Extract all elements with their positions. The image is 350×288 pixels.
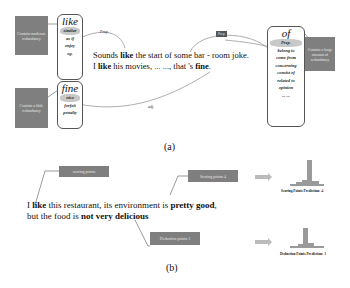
text: this restaurant, its environment is <box>46 200 170 210</box>
card-item: nice <box>60 94 80 102</box>
sentence-a-line2: I like his movies, ... ..., that 's fine… <box>93 61 211 72</box>
deduction-prediction: Deduction Points Prediction: 1 <box>280 251 326 256</box>
scoring-histogram <box>290 160 324 186</box>
card-item: opinion <box>268 84 304 92</box>
card-head: like <box>58 15 82 27</box>
deduction-points-box: Deduction points 1 <box>150 232 200 245</box>
sentence-b-line1: I like this restaurant, its environment … <box>27 200 217 211</box>
card-head: fine <box>58 82 82 94</box>
text: but the food is <box>27 211 81 221</box>
box-label: Deduction points 1 <box>160 236 190 241</box>
card-item: concerning <box>268 62 304 70</box>
card-item: ... ... <box>268 92 304 100</box>
arrow-right-icon <box>255 240 268 244</box>
card-head: of <box>268 27 304 39</box>
card-item: penalty <box>58 109 82 117</box>
pred-label: Deduction Points Prediction: <box>280 252 323 256</box>
redundancy-box-large: Contain a large amount of redundancy <box>305 37 335 71</box>
word-card-fine: fine nice forfeit penalty <box>57 81 83 129</box>
word-card-of: of Prep. belong to come from concerning … <box>267 26 305 127</box>
pred-label: Scoring Points Prediction: <box>281 189 320 193</box>
text: Sounds <box>93 50 120 60</box>
card-item: Prep. <box>270 39 302 47</box>
word-card-like: like similar as if enjoy eg. <box>57 14 83 80</box>
caption-a: (a) <box>164 141 175 152</box>
keyword: like <box>120 50 133 60</box>
keyword: not very delicious <box>81 211 149 221</box>
box-label: Contain moderate redundancy <box>16 31 47 41</box>
pred-value: 1 <box>324 251 327 256</box>
card-item: enjoy <box>58 42 82 50</box>
card-item: consist of <box>268 69 304 77</box>
card-item: eg. <box>58 50 82 58</box>
arrow-right-icon <box>255 175 268 179</box>
edge-label-of: Prep. <box>216 31 227 37</box>
box-label: Scoring points 4 <box>200 174 226 179</box>
redundancy-box-moderate: Contain moderate redundancy <box>15 16 48 55</box>
box-label: scoring points <box>73 169 96 174</box>
sentence-b-line2: but the food is not very delicious <box>27 211 149 222</box>
deduction-histogram <box>290 228 324 248</box>
edge-label-like: Prep. <box>100 29 109 34</box>
sentence-a-line1: Sounds like the start of some bar - room… <box>93 50 249 61</box>
caption-b: (b) <box>166 262 178 273</box>
card-item: forfeit <box>58 102 82 110</box>
card-item: similar <box>60 27 80 35</box>
card-item: belong to <box>268 47 304 55</box>
card-item: come from <box>268 54 304 62</box>
pred-value: 4 <box>321 188 324 193</box>
edge-label-fine: adj. <box>148 104 154 109</box>
text: the start of some bar - room joke. <box>133 50 248 60</box>
keyword: pretty good <box>171 200 215 210</box>
redundancy-box-little: Contain a little redundancy <box>15 88 48 128</box>
text: . <box>209 61 211 71</box>
keyword: like <box>32 200 46 210</box>
keyword: like <box>98 61 111 71</box>
scoring-points-box-top: scoring points <box>59 166 109 177</box>
scoring-prediction: Scoring Points Prediction: 4 <box>281 188 324 193</box>
keyword: fine <box>195 61 209 71</box>
scoring-points-box: Scoring points 4 <box>188 170 238 182</box>
card-item: as if <box>58 35 82 43</box>
text: , <box>215 200 217 210</box>
box-label: Contain a large amount of redundancy <box>306 47 334 62</box>
text: his movies, ... ..., that 's <box>111 61 195 71</box>
card-item: related to <box>268 77 304 85</box>
box-label: Contain a little redundancy <box>16 103 47 113</box>
